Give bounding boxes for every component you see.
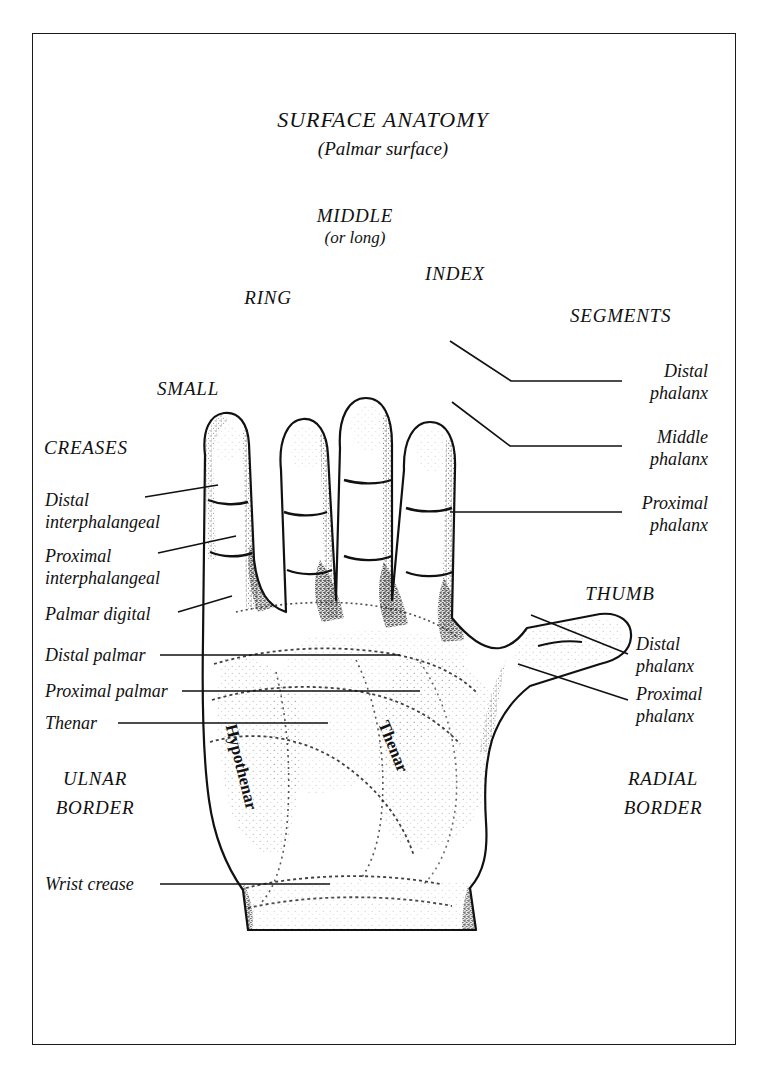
finger-label-index: INDEX — [395, 263, 515, 284]
figure-subtitle: (Palmar surface) — [233, 138, 533, 159]
group-heading-segments: SEGMENTS — [570, 305, 671, 326]
thumb-segment-label-distal-phalanx-line2: phalanx — [636, 656, 694, 676]
crease-label-thenar: Thenar — [45, 713, 97, 733]
thumb-segment-label-proximal-phalanx-line1: Proximal — [636, 684, 702, 704]
segment-label-proximal-phalanx-line2: phalanx — [518, 515, 708, 535]
crease-label-distal-interphalangeal-line2: interphalangeal — [45, 512, 160, 532]
segment-label-distal-phalanx-line1: Distal — [518, 361, 708, 381]
finger-label-middle: MIDDLE — [280, 205, 430, 226]
border-label-ulnar-line1: ULNAR — [30, 768, 160, 789]
crease-label-proximal-palmar: Proximal palmar — [45, 681, 168, 701]
crease-label-proximal-interphalangeal-line2: interphalangeal — [45, 568, 160, 588]
finger-label-small: SMALL — [128, 378, 248, 399]
border-label-radial-line1: RADIAL — [598, 768, 728, 789]
figure-title: SURFACE ANATOMY — [233, 108, 533, 133]
thumb-segment-label-proximal-phalanx-line2: phalanx — [636, 706, 694, 726]
finger-label-ring: RING — [213, 287, 323, 308]
crease-label-distal-interphalangeal-line1: Distal — [45, 490, 89, 510]
segment-label-middle-phalanx-line1: Middle — [518, 427, 708, 447]
crease-label-wrist-crease: Wrist crease — [45, 874, 134, 894]
segment-label-proximal-phalanx-line1: Proximal — [518, 493, 708, 513]
thumb-segment-label-distal-phalanx-line1: Distal — [636, 634, 680, 654]
crease-label-palmar-digital: Palmar digital — [45, 604, 151, 624]
segment-label-middle-phalanx-line2: phalanx — [518, 449, 708, 469]
figure-frame — [32, 33, 736, 1045]
finger-label-middle-alt: (or long) — [280, 228, 430, 247]
border-label-radial-line2: BORDER — [598, 797, 728, 818]
border-label-ulnar-line2: BORDER — [30, 797, 160, 818]
figure-page: SURFACE ANATOMY (Palmar surface) MIDDLE … — [0, 0, 766, 1072]
crease-label-proximal-interphalangeal-line1: Proximal — [45, 546, 111, 566]
finger-label-thumb: THUMB — [560, 583, 680, 604]
crease-label-distal-palmar: Distal palmar — [45, 645, 146, 665]
segment-label-distal-phalanx-line2: phalanx — [518, 383, 708, 403]
group-heading-creases: CREASES — [44, 437, 128, 458]
